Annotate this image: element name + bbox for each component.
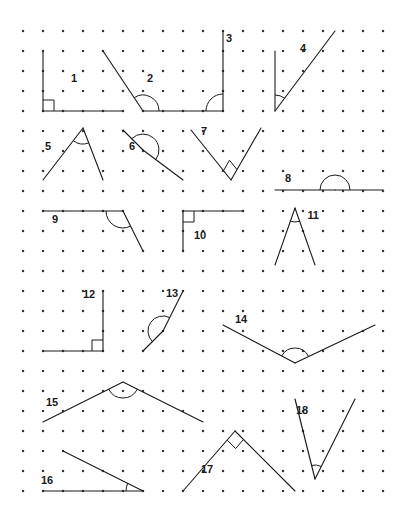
angle-ray xyxy=(123,211,143,251)
angle-ray xyxy=(103,51,143,111)
angle-arc-marker xyxy=(320,175,350,190)
angle-worksheet: 123456789101112131415161718 xyxy=(0,0,395,520)
angle-arc-marker xyxy=(206,94,223,111)
angle-label-2: 2 xyxy=(147,73,153,84)
angle-figure-10[interactable] xyxy=(183,211,243,251)
angle-arc-marker xyxy=(282,348,309,357)
right-angle-marker xyxy=(224,160,238,170)
angle-ray xyxy=(123,382,203,422)
angle-arc-marker xyxy=(290,221,299,222)
angle-arc-marker xyxy=(109,389,138,398)
angle-label-12: 12 xyxy=(83,289,95,300)
angle-figure-15[interactable] xyxy=(43,382,203,422)
angle-label-14: 14 xyxy=(235,314,247,325)
angle-label-16: 16 xyxy=(41,475,53,486)
angle-arc-marker xyxy=(132,134,159,160)
angle-label-10: 10 xyxy=(194,230,206,241)
angle-ray xyxy=(191,130,231,180)
angle-figure-5[interactable] xyxy=(43,128,103,180)
angle-label-1: 1 xyxy=(71,73,77,84)
angle-arc-marker xyxy=(148,316,170,342)
angle-ray xyxy=(143,150,183,180)
angle-label-7: 7 xyxy=(201,126,207,137)
angle-ray xyxy=(235,431,295,491)
angle-figure-16[interactable] xyxy=(43,451,143,491)
angle-label-5: 5 xyxy=(45,141,51,152)
right-angle-marker xyxy=(227,439,243,448)
angle-ray xyxy=(83,128,103,180)
angle-figure-3[interactable] xyxy=(203,31,223,111)
angle-figure-8[interactable] xyxy=(275,175,383,190)
angle-ray xyxy=(43,128,83,180)
right-angle-marker xyxy=(43,100,54,111)
angle-arc-marker xyxy=(126,483,128,491)
angle-label-15: 15 xyxy=(46,397,58,408)
angle-figure-12[interactable] xyxy=(43,291,103,351)
angle-ray xyxy=(275,208,295,265)
angle-figure-13[interactable] xyxy=(143,291,183,351)
angle-ray xyxy=(183,431,235,491)
angle-label-6: 6 xyxy=(129,141,135,152)
angle-label-3: 3 xyxy=(226,33,232,44)
angle-label-13: 13 xyxy=(166,288,178,299)
angle-label-8: 8 xyxy=(285,173,291,184)
angle-ray xyxy=(231,128,261,180)
angle-arc-marker xyxy=(73,141,89,144)
right-angle-marker xyxy=(92,340,103,351)
angle-figure-17[interactable] xyxy=(183,431,295,491)
angle-ray xyxy=(315,399,355,479)
angle-figure-6[interactable] xyxy=(123,130,183,180)
angle-figure-1[interactable] xyxy=(43,51,123,111)
angle-label-9: 9 xyxy=(52,214,58,225)
angle-arc-marker xyxy=(312,465,322,466)
angle-label-17: 17 xyxy=(201,464,213,475)
angle-label-11: 11 xyxy=(307,210,318,221)
angle-ray xyxy=(63,451,143,491)
angle-label-18: 18 xyxy=(296,405,308,416)
angle-arc-marker xyxy=(275,95,285,98)
angle-figure-14[interactable] xyxy=(223,325,375,363)
angle-ray xyxy=(143,331,163,351)
angle-figures-layer xyxy=(0,0,395,520)
angle-label-4: 4 xyxy=(300,43,306,54)
angle-ray xyxy=(223,325,295,363)
right-angle-marker xyxy=(183,211,194,222)
angle-ray xyxy=(295,325,375,363)
